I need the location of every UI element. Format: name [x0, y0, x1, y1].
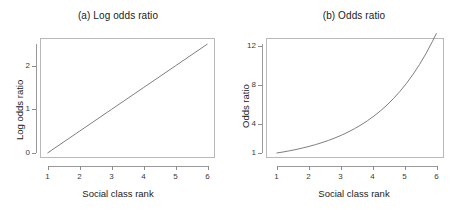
panel-b-y-axis-title: Odds ratio — [240, 84, 251, 128]
panel-a-y-tick-2 — [32, 66, 36, 67]
panel-a-x-ticklabel-1: 1 — [38, 172, 58, 181]
panel-b-x-tick-6 — [437, 166, 438, 170]
panel-b-x-axis-line — [277, 166, 437, 167]
panel-a-x-ticklabel-6: 6 — [198, 172, 218, 181]
panel-a-x-axis-line — [48, 166, 208, 167]
panel-b-x-tick-5 — [405, 166, 406, 170]
panel-a-x-tick-6 — [208, 166, 209, 170]
panel-b-y-tick-8 — [258, 85, 262, 86]
panel-a-line-series — [48, 44, 208, 153]
panel-a-x-axis-title: Social class rank — [0, 188, 236, 199]
panel-a-y-ticklabel-0: 0 — [8, 148, 30, 157]
panel-odds-ratio: (b) Odds ratio 1 4 8 12 1 2 3 4 5 6 Soci… — [236, 0, 472, 210]
panel-a-x-ticklabel-5: 5 — [166, 172, 186, 181]
figure-two-panel-odds-ratio: (a) Log odds ratio 0 1 2 1 2 3 4 5 6 Soc… — [0, 0, 472, 210]
panel-b-curve-series — [277, 33, 437, 153]
panel-b-x-ticklabel-3: 3 — [331, 172, 351, 181]
panel-b-y-ticklabel-1: 1 — [234, 148, 256, 157]
panel-a-x-ticklabel-2: 2 — [70, 172, 90, 181]
panel-b-x-ticklabel-2: 2 — [299, 172, 319, 181]
panel-b-x-ticklabel-1: 1 — [267, 172, 287, 181]
panel-b-x-ticklabel-5: 5 — [395, 172, 415, 181]
panel-a-x-tick-1 — [48, 166, 49, 170]
panel-b-y-axis-line — [262, 44, 263, 153]
panel-a-y-axis-title: Log odds ratio — [14, 80, 25, 140]
panel-a-x-tick-3 — [112, 166, 113, 170]
panel-a-x-ticklabel-3: 3 — [102, 172, 122, 181]
panel-log-odds-ratio: (a) Log odds ratio 0 1 2 1 2 3 4 5 6 Soc… — [0, 0, 236, 210]
panel-b-x-ticklabel-6: 6 — [427, 172, 447, 181]
panel-b-x-tick-4 — [373, 166, 374, 170]
panel-b-y-tick-12 — [258, 46, 262, 47]
panel-a-x-ticklabel-4: 4 — [134, 172, 154, 181]
panel-a-y-ticklabel-2: 2 — [8, 61, 30, 70]
panel-a-x-tick-2 — [80, 166, 81, 170]
panel-b-x-tick-1 — [277, 166, 278, 170]
panel-a-x-tick-5 — [176, 166, 177, 170]
panel-b-y-tick-4 — [258, 124, 262, 125]
panel-a-y-axis-line — [36, 44, 37, 153]
panel-a-y-tick-0 — [32, 153, 36, 154]
panel-a-y-tick-1 — [32, 109, 36, 110]
panel-b-x-tick-2 — [309, 166, 310, 170]
panel-b-y-tick-1 — [258, 153, 262, 154]
panel-b-x-tick-3 — [341, 166, 342, 170]
panel-a-x-tick-4 — [144, 166, 145, 170]
panel-b-y-ticklabel-12: 12 — [234, 41, 256, 50]
panel-b-x-ticklabel-4: 4 — [363, 172, 383, 181]
panel-b-x-axis-title: Social class rank — [236, 188, 472, 199]
